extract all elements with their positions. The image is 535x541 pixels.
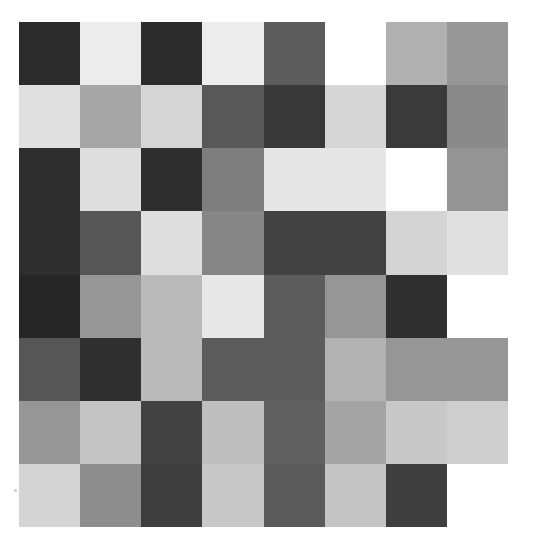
grid-cell-r1-c1	[19, 22, 80, 85]
grid-cell-r2-c3	[141, 85, 202, 148]
grid-cell-r5-c4	[202, 275, 263, 338]
grayscale-grid	[19, 22, 508, 527]
grid-cell-r5-c5	[264, 275, 325, 338]
grid-cell-r4-c8	[447, 211, 508, 274]
grid-cell-r6-c2	[80, 338, 141, 401]
grid-cell-r2-c6	[325, 85, 386, 148]
grid-cell-r6-c8	[447, 338, 508, 401]
grid-cell-r3-c1	[19, 148, 80, 211]
image-canvas	[0, 0, 535, 541]
grid-cell-r8-c6	[325, 464, 386, 527]
grid-cell-r3-c2	[80, 148, 141, 211]
grid-cell-r1-c4	[202, 22, 263, 85]
grid-cell-r4-c4	[202, 211, 263, 274]
grid-cell-r5-c8	[447, 275, 508, 338]
grid-cell-r4-c3	[141, 211, 202, 274]
grid-cell-r5-c2	[80, 275, 141, 338]
grid-cell-r1-c2	[80, 22, 141, 85]
grid-cell-r7-c8	[447, 401, 508, 464]
grid-cell-r6-c4	[202, 338, 263, 401]
grid-cell-r3-c4	[202, 148, 263, 211]
grid-cell-r6-c1	[19, 338, 80, 401]
grid-cell-r8-c1	[19, 464, 80, 527]
grid-cell-r8-c4	[202, 464, 263, 527]
grid-cell-r3-c8	[447, 148, 508, 211]
grid-cell-r5-c3	[141, 275, 202, 338]
grid-cell-r2-c4	[202, 85, 263, 148]
grid-cell-r7-c4	[202, 401, 263, 464]
grid-cell-r7-c2	[80, 401, 141, 464]
grid-cell-r2-c1	[19, 85, 80, 148]
grid-cell-r2-c5	[264, 85, 325, 148]
grid-cell-r5-c7	[386, 275, 447, 338]
grid-cell-r5-c1	[19, 275, 80, 338]
grid-cell-r4-c5	[264, 211, 325, 274]
grid-cell-r4-c1	[19, 211, 80, 274]
grid-cell-r2-c8	[447, 85, 508, 148]
grid-cell-r7-c3	[141, 401, 202, 464]
grid-cell-r7-c5	[264, 401, 325, 464]
grid-cell-r7-c6	[325, 401, 386, 464]
grid-cell-r3-c5	[264, 148, 325, 211]
grid-cell-r3-c7	[386, 148, 447, 211]
grid-cell-r6-c7	[386, 338, 447, 401]
grid-cell-r8-c3	[141, 464, 202, 527]
grid-cell-r6-c6	[325, 338, 386, 401]
grid-cell-r6-c3	[141, 338, 202, 401]
grid-cell-r4-c6	[325, 211, 386, 274]
grid-cell-r6-c5	[264, 338, 325, 401]
grid-cell-r8-c5	[264, 464, 325, 527]
grid-cell-r7-c1	[19, 401, 80, 464]
grid-cell-r7-c7	[386, 401, 447, 464]
grid-cell-r8-c8	[447, 464, 508, 527]
grid-cell-r3-c6	[325, 148, 386, 211]
grid-cell-r1-c6	[325, 22, 386, 85]
grid-cell-r1-c3	[141, 22, 202, 85]
noise-speck	[14, 489, 17, 492]
grid-cell-r8-c2	[80, 464, 141, 527]
grid-cell-r4-c2	[80, 211, 141, 274]
grid-cell-r3-c3	[141, 148, 202, 211]
grid-cell-r2-c7	[386, 85, 447, 148]
grid-cell-r8-c7	[386, 464, 447, 527]
grid-cell-r2-c2	[80, 85, 141, 148]
grid-cell-r5-c6	[325, 275, 386, 338]
grid-cell-r1-c5	[264, 22, 325, 85]
grid-cell-r4-c7	[386, 211, 447, 274]
grid-cell-r1-c7	[386, 22, 447, 85]
grid-cell-r1-c8	[447, 22, 508, 85]
